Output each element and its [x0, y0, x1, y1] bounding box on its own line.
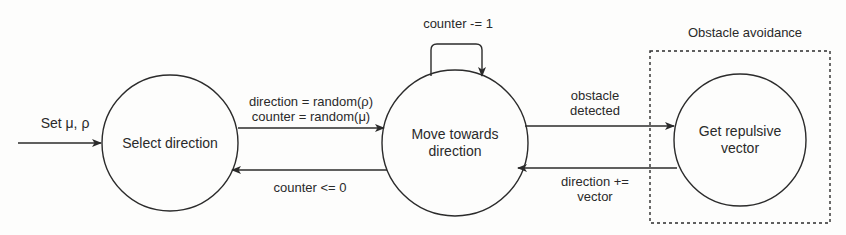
state-diagram: Set μ, ρ Select direction Move towards d… — [0, 0, 846, 235]
repulsive-label-line2: vector — [721, 140, 759, 157]
self-loop-label: counter -= 1 — [400, 16, 516, 31]
select-direction-label: Select direction — [102, 133, 238, 153]
move-towards-direction-label: Move towards direction — [390, 125, 520, 161]
get-repulsive-vector-label: Get repulsive vector — [680, 122, 800, 158]
move-to-select-label: counter <= 0 — [250, 180, 370, 195]
repulsive-to-move-label: direction += vector — [540, 174, 650, 204]
select-to-move-label-line1: direction = random(ρ) — [226, 94, 396, 109]
move-to-repulsive-label-line1: obstacle — [540, 88, 650, 103]
move-to-repulsive-label-line2: detected — [540, 103, 650, 118]
repulsive-label-line1: Get repulsive — [699, 123, 781, 140]
entry-label: Set μ, ρ — [30, 116, 100, 131]
select-to-move-label: direction = random(ρ) counter = random(μ… — [226, 94, 396, 124]
obstacle-avoidance-group-label: Obstacle avoidance — [660, 25, 830, 40]
select-to-move-label-line2: counter = random(μ) — [226, 109, 396, 124]
repulsive-to-move-label-line1: direction += — [540, 174, 650, 189]
move-to-repulsive-label: obstacle detected — [540, 88, 650, 118]
move-label-line2: direction — [429, 143, 482, 160]
move-label-line1: Move towards — [411, 126, 498, 143]
repulsive-to-move-label-line2: vector — [540, 189, 650, 204]
